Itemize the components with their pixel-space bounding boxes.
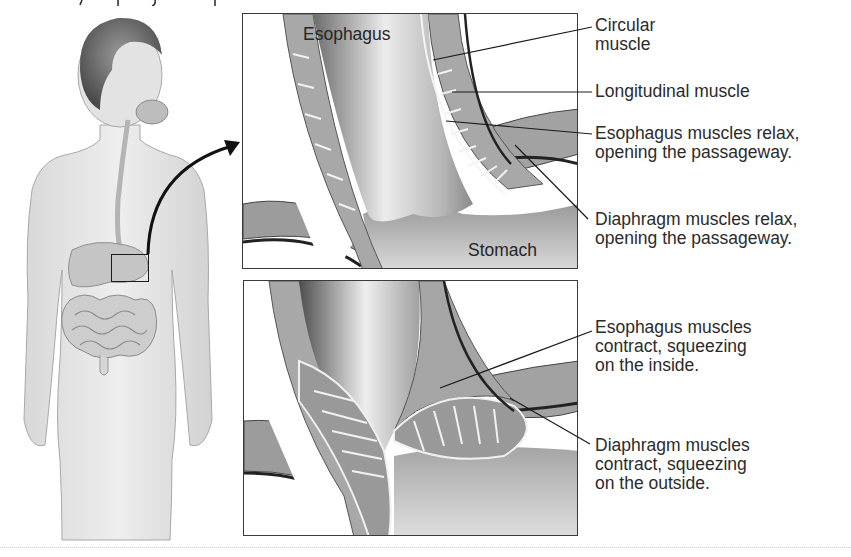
callout-longitudinal-muscle: Longitudinal muscle: [595, 82, 750, 101]
relaxed-anatomy-graphic: [243, 14, 578, 269]
label-stomach: Stomach: [468, 240, 537, 261]
curved-arrow-icon: [140, 130, 250, 260]
label-esophagus: Esophagus: [303, 24, 391, 45]
callout-esophagus-relax: Esophagus muscles relax, opening the pas…: [595, 124, 799, 162]
contracted-anatomy-graphic: [244, 281, 578, 536]
callout-diaphragm-contract: Diaphragm muscles contract, squeezing on…: [595, 436, 750, 493]
callout-circular-muscle: Circular muscle: [595, 16, 655, 54]
zoom-arrow: [140, 130, 250, 260]
bottom-divider: [0, 547, 851, 548]
callout-diaphragm-relax: Diaphragm muscles relax, opening the pas…: [595, 210, 797, 248]
callout-esophagus-contract: Esophagus muscles contract, squeezing on…: [595, 318, 752, 375]
panel-relaxed: Esophagus Stomach: [242, 13, 578, 269]
panel-contracted: [243, 280, 578, 536]
